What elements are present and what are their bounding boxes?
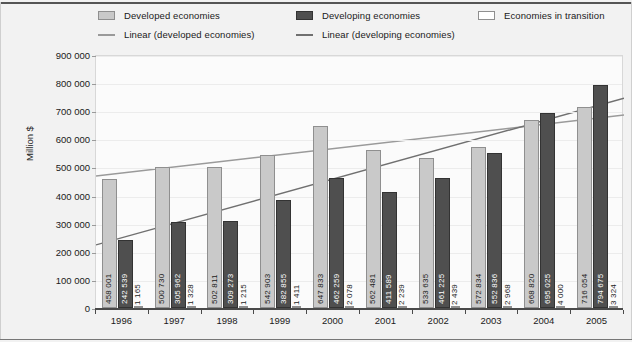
bar-value-label: 411 589 bbox=[385, 274, 393, 304]
x-axis-tickmark bbox=[95, 310, 96, 314]
gridline bbox=[96, 84, 622, 85]
legend-item-economies-in-transition[interactable]: Economies in transition bbox=[478, 10, 605, 21]
bar-value-label: 1 411 bbox=[293, 285, 301, 305]
x-axis-tick-label: 1999 bbox=[254, 315, 306, 326]
x-axis-tick-label: 2000 bbox=[307, 315, 359, 326]
legend-item-linear-developing[interactable]: Linear (developing economies) bbox=[296, 29, 455, 40]
legend-label-linear-developing: Linear (developing economies) bbox=[322, 29, 455, 40]
bar-value-label: 500 730 bbox=[158, 274, 166, 304]
legend-label-transition: Economies in transition bbox=[504, 10, 605, 21]
x-axis-tick-label: 2004 bbox=[518, 315, 570, 326]
bar-value-label: 562 481 bbox=[369, 274, 377, 304]
bar-developing[interactable]: 461 225 bbox=[435, 178, 450, 308]
bar-value-label: 572 834 bbox=[475, 274, 483, 304]
gridline bbox=[96, 56, 622, 57]
bar-value-label: 462 259 bbox=[333, 274, 341, 304]
x-axis-tick-label: 2002 bbox=[412, 315, 464, 326]
x-axis-tickmark bbox=[148, 310, 149, 314]
x-axis-tick-label: 2001 bbox=[359, 315, 411, 326]
y-axis-tickmark bbox=[92, 84, 96, 85]
bar-group: 572 834552 8362 968 bbox=[466, 147, 519, 308]
bar-developing[interactable]: 242 539 bbox=[118, 240, 133, 308]
legend-line-developing-icon bbox=[296, 34, 313, 36]
bar-developed[interactable]: 572 834 bbox=[471, 147, 486, 308]
y-axis-tick-label: 600 000 bbox=[38, 134, 90, 145]
y-axis-ticks: 900 000800 000700 000600 000500 000400 0… bbox=[38, 50, 90, 312]
y-axis-tickmark bbox=[92, 56, 96, 57]
bar-developing[interactable]: 462 259 bbox=[329, 178, 344, 308]
bar-value-label: 305 962 bbox=[174, 274, 182, 304]
bar-value-label: 2 968 bbox=[504, 284, 512, 305]
bar-group: 502 811309 2731 215 bbox=[202, 167, 255, 308]
bottom-divider bbox=[0, 339, 632, 340]
x-axis-tickmark bbox=[412, 310, 413, 314]
legend-label-developed: Developed economies bbox=[124, 10, 220, 21]
x-axis-tick-label: 1998 bbox=[201, 315, 253, 326]
x-axis-tickmark bbox=[201, 310, 202, 314]
bar-developing[interactable]: 695 025 bbox=[540, 113, 555, 308]
left-border bbox=[0, 2, 1, 340]
bar-value-label: 552 836 bbox=[491, 274, 499, 304]
x-axis-tickmark bbox=[465, 310, 466, 314]
x-axis-tick-label: 2003 bbox=[465, 315, 517, 326]
legend-line-developed-icon bbox=[98, 34, 115, 36]
y-axis-tick-label: 500 000 bbox=[38, 162, 90, 173]
legend-label-linear-developed: Linear (developed economies) bbox=[124, 29, 255, 40]
legend-swatch-transition-icon bbox=[478, 11, 495, 20]
bar-value-label: 695 025 bbox=[544, 274, 552, 304]
bar-developing[interactable]: 411 589 bbox=[382, 192, 397, 308]
bar-developing[interactable]: 382 855 bbox=[276, 200, 291, 308]
bar-developing[interactable]: 305 962 bbox=[171, 222, 186, 308]
legend-swatch-developing-icon bbox=[296, 11, 313, 20]
bar-developed[interactable]: 668 820 bbox=[524, 120, 539, 308]
bar-value-label: 794 675 bbox=[597, 274, 605, 304]
bar-developed[interactable]: 500 730 bbox=[155, 167, 170, 308]
bar-developed[interactable]: 458 001 bbox=[102, 179, 117, 308]
y-axis-tickmark bbox=[92, 140, 96, 141]
bar-value-label: 2 239 bbox=[398, 284, 406, 305]
bar-value-label: 382 855 bbox=[280, 274, 288, 304]
bar-developing[interactable]: 309 273 bbox=[223, 221, 238, 308]
bar-value-label: 461 225 bbox=[438, 274, 446, 304]
x-axis-tickmark bbox=[359, 310, 360, 314]
bar-value-label: 2 439 bbox=[451, 284, 459, 305]
y-axis-tick-label: 300 000 bbox=[38, 218, 90, 229]
bar-developing[interactable]: 794 675 bbox=[593, 85, 608, 308]
bar-value-label: 1 328 bbox=[187, 284, 195, 305]
x-axis-tickmark bbox=[306, 310, 307, 314]
bar-developed[interactable]: 502 811 bbox=[207, 167, 222, 308]
bar-value-label: 542 903 bbox=[264, 274, 272, 304]
chart-container: Developed economies Developing economies… bbox=[0, 0, 632, 342]
bar-developed[interactable]: 716 054 bbox=[577, 107, 592, 308]
bar-group: 500 730305 9621 328 bbox=[149, 167, 202, 308]
bar-developed[interactable]: 533 635 bbox=[419, 158, 434, 308]
bar-developing[interactable]: 552 836 bbox=[487, 153, 502, 308]
x-axis-tickmark bbox=[570, 310, 571, 314]
bar-group: 533 635461 2252 439 bbox=[413, 158, 466, 308]
x-axis-tick-label: 2005 bbox=[571, 315, 623, 326]
bar-group: 562 481411 5892 239 bbox=[360, 150, 413, 308]
x-axis-tickmark bbox=[517, 310, 518, 314]
legend-item-linear-developed[interactable]: Linear (developed economies) bbox=[98, 29, 255, 40]
legend-item-developing-economies[interactable]: Developing economies bbox=[296, 10, 420, 21]
bar-developed[interactable]: 647 833 bbox=[313, 126, 328, 308]
chart-legend: Developed economies Developing economies… bbox=[0, 10, 632, 48]
bar-value-label: 1 165 bbox=[134, 284, 142, 305]
bar-value-label: 668 820 bbox=[528, 274, 536, 304]
y-axis-tickmark bbox=[92, 112, 96, 113]
bar-value-label: 3 324 bbox=[610, 284, 618, 305]
legend-item-developed-economies[interactable]: Developed economies bbox=[98, 10, 220, 21]
plot-area: 458 001242 5391 165500 730305 9621 32850… bbox=[95, 55, 623, 308]
bar-group: 668 820695 0254 000 bbox=[518, 113, 571, 308]
y-axis-tick-label: 900 000 bbox=[38, 50, 90, 61]
x-axis-tick-label: 1996 bbox=[95, 315, 147, 326]
bar-developed[interactable]: 562 481 bbox=[366, 150, 381, 308]
bar-value-label: 502 811 bbox=[211, 274, 219, 304]
bar-developed[interactable]: 542 903 bbox=[260, 155, 275, 308]
bar-value-label: 1 215 bbox=[240, 284, 248, 305]
bar-group: 716 054794 6753 324 bbox=[571, 85, 624, 308]
legend-label-developing: Developing economies bbox=[322, 10, 420, 21]
bar-value-label: 458 001 bbox=[105, 274, 113, 304]
x-axis-tick-label: 1997 bbox=[148, 315, 200, 326]
y-axis-tick-label: 700 000 bbox=[38, 106, 90, 117]
